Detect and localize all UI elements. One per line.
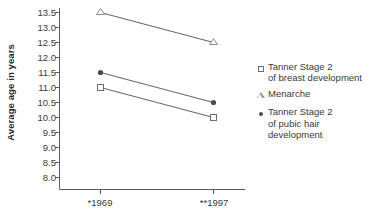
chart-figure: Average age in years 13.5 13.0 12.5 12.0… [0,0,376,220]
legend-label: Menarche [268,88,310,99]
legend-label: Tanner Stage 2 of breast development [268,61,362,83]
legend-item-pubic-hair: Tanner Stage 2 of pubic hair development [256,106,376,140]
legend-item-menarche: Menarche [256,88,376,101]
open-square-icon [256,62,268,74]
chart-legend: Tanner Stage 2 of breast development Men… [256,61,376,145]
x-tick-label-1997: **1997 [200,197,229,208]
filled-circle-icon [256,107,268,119]
x-tick-label-1969: *1969 [88,197,113,208]
legend-item-breast-development: Tanner Stage 2 of breast development [256,61,376,83]
legend-label: Tanner Stage 2 of pubic hair development [268,106,332,140]
open-triangle-icon [256,89,268,101]
